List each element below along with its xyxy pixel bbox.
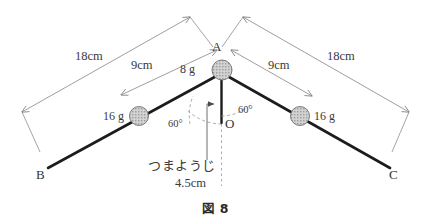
point-label-b: B (36, 168, 45, 181)
dimension-inner-left (121, 50, 217, 95)
figure-container: A B C O 8 g 16 g 16 g 18cm 18cm 9cm 9cm … (0, 0, 431, 222)
point-label-c: C (389, 168, 398, 181)
ball-right-16g (291, 107, 310, 126)
dimension-label-outer-right: 18cm (327, 50, 355, 63)
dimension-outer-right (222, 17, 409, 152)
dimension-label-inner-right: 9cm (268, 59, 290, 72)
ball-apex-8g (212, 60, 232, 80)
mass-label-right-ball: 16 g (314, 110, 335, 122)
mass-label-left-ball: 16 g (103, 110, 124, 122)
dimension-inner-right (231, 50, 312, 96)
point-label-a: A (212, 40, 221, 53)
dimension-outer-left (22, 17, 213, 152)
toothpick-annotation-label: つまようじ (148, 159, 216, 172)
angle-arc-left (189, 96, 193, 124)
toothpick-leader (207, 104, 214, 160)
dimension-label-inner-left: 9cm (131, 59, 153, 72)
angle-arc-left-inner (186, 109, 222, 124)
ball-left-16g (130, 107, 149, 126)
dimension-label-outer-left: 18cm (75, 50, 103, 63)
dimension-label-toothpick: 4.5cm (175, 177, 206, 190)
figure-caption: 図 8 (0, 198, 431, 217)
mass-label-apex: 8 g (180, 63, 195, 75)
figure-drawing (0, 0, 431, 222)
point-label-o: O (225, 117, 234, 130)
angle-label-left: 60° (168, 119, 183, 130)
angle-label-right: 60° (238, 105, 253, 116)
